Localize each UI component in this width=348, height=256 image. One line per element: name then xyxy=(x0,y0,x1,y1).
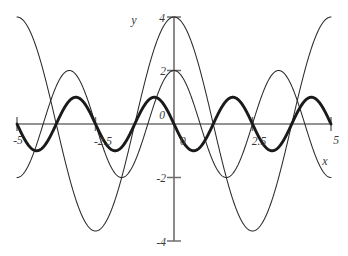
x-tick-label-2.5: 2.5 xyxy=(252,135,267,147)
x-tick-label--2.5: -2.5 xyxy=(94,135,112,147)
x-axis-label: x xyxy=(321,154,328,168)
origin-label-y: 0 xyxy=(159,109,165,121)
y-tick-label-4: 4 xyxy=(159,12,165,24)
plot-figure: -5 -2.5 2.5 5 4 2 -2 -4 0 0 y x xyxy=(0,0,348,256)
y-tick-label-2: 2 xyxy=(160,65,166,77)
y-tick-label--2: -2 xyxy=(156,172,166,184)
x-tick-label-5: 5 xyxy=(333,134,339,146)
origin-label-x: 0 xyxy=(180,135,186,147)
x-tick-label--5: -5 xyxy=(13,134,23,146)
y-tick-label--4: -4 xyxy=(156,236,166,248)
plot-canvas: -5 -2.5 2.5 5 4 2 -2 -4 0 0 y x xyxy=(0,0,348,256)
y-axis-label: y xyxy=(130,13,137,27)
